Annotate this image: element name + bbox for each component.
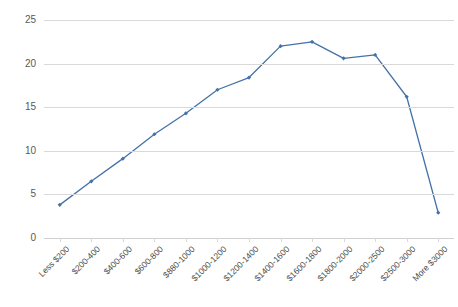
y-tick-label: 10 [0,146,36,156]
x-axis: Less $200$200-400$400-600$600-800$880-10… [44,238,454,307]
x-tick-mark [123,238,124,242]
gridline [44,20,454,21]
x-tick-label-text: Less $200 [36,244,71,279]
x-tick-mark [186,238,187,242]
y-tick-label: 20 [0,59,36,69]
x-tick-mark [249,238,250,242]
x-tick-label-text: $400-600 [101,244,133,276]
gridline [44,194,454,195]
x-tick-mark [217,238,218,242]
x-tick-mark [281,238,282,242]
y-tick-label: 25 [0,15,36,25]
gridline [44,64,454,65]
y-tick-label: 0 [0,233,36,243]
y-tick-label: 5 [0,189,36,199]
x-tick-mark [91,238,92,242]
x-tick-mark [438,238,439,242]
x-tick-mark [154,238,155,242]
y-axis: 0510152025 [0,0,36,307]
gridline [44,107,454,108]
x-tick-mark [60,238,61,242]
series-line-group [44,20,454,238]
x-tick-mark [407,238,408,242]
data-point-marker [436,211,440,215]
x-tick-mark [375,238,376,242]
y-tick-label: 15 [0,102,36,112]
x-tick-label-text: $200-400 [70,244,102,276]
line-chart: 0510152025 Less $200$200-400$400-600$600… [0,0,458,307]
series-line [60,42,438,213]
x-tick-mark [312,238,313,242]
plot-area [44,20,454,238]
x-tick-mark [344,238,345,242]
gridline [44,151,454,152]
